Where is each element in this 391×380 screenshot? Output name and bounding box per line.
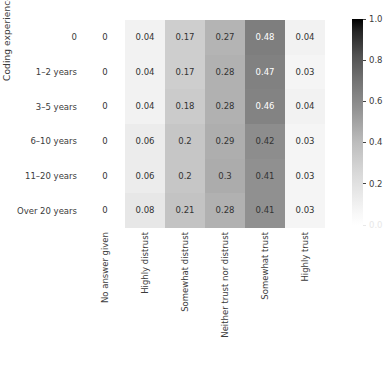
heatmap-cell-value: 0.29 [216,137,235,146]
x-tick-label-slot: Highly trust [285,228,325,378]
y-tick-label: 3–5 years [0,89,81,124]
heatmap-cell: 0 [85,193,125,228]
y-tick-label: 0 [0,20,81,55]
y-tick-label: Over 20 years [0,193,81,228]
heatmap-cell-value: 0.41 [256,206,275,215]
heatmap-cell: 0.42 [245,124,285,159]
heatmap-cell: 0.03 [285,193,325,228]
heatmap-cell-value: 0.06 [136,137,155,146]
heatmap-cell: 0.28 [205,193,245,228]
heatmap-cell-value: 0.2 [178,172,192,181]
y-tick-label: 1–2 years [0,55,81,90]
heatmap-cell-value: 0.06 [136,172,155,181]
heatmap-cell-value: 0 [102,137,107,146]
heatmap-cell-value: 0.03 [296,206,315,215]
heatmap-cell: 0.03 [285,124,325,159]
heatmap-cell: 0.3 [205,159,245,194]
heatmap-cell: 0.21 [165,193,205,228]
heatmap-cell-value: 0 [102,172,107,181]
heatmap-cell-value: 0.48 [256,33,275,42]
heatmap-cell: 0.04 [125,20,165,55]
x-tick-label-slot: Neither trust nor distrust [205,228,245,378]
x-tick-label-slot: No answer given [85,228,125,378]
heatmap-cell: 0 [85,55,125,90]
heatmap-cell-value: 0.04 [296,33,315,42]
heatmap-cell-value: 0 [102,206,107,215]
heatmap-cell: 0.06 [125,124,165,159]
heatmap-cell-value: 0 [102,102,107,111]
heatmap-cell-value: 0 [102,33,107,42]
heatmap-cell: 0 [85,159,125,194]
heatmap-cell: 0.2 [165,124,205,159]
colorbar-tick-label: 0.8 [369,55,383,64]
heatmap-cell-value: 0.28 [216,102,235,111]
heatmap-cell: 0.04 [125,55,165,90]
heatmap-cell-value: 0.03 [296,68,315,77]
heatmap-cell-value: 0.04 [136,33,155,42]
colorbar-tick-mark [363,101,366,102]
x-tick-label-slot: Highly distrust [125,228,165,378]
heatmap-cell: 0.06 [125,159,165,194]
heatmap-cell: 0.29 [205,124,245,159]
colorbar-tick-label: 1.0 [369,14,383,23]
colorbar-tick-mark [363,60,366,61]
heatmap-cell: 0.28 [205,55,245,90]
y-tick-label: 11–20 years [0,159,81,194]
heatmap-cell-value: 0.21 [176,206,195,215]
x-tick-label: Highly trust [300,232,310,282]
heatmap-cell-value: 0.04 [136,102,155,111]
x-tick-label-slot: Somewhat distrust [165,228,205,378]
heatmap-cell-value: 0.3 [218,172,232,181]
colorbar-ticks: 0.00.20.40.60.81.0 [363,19,391,225]
heatmap-cell-value: 0.27 [216,33,235,42]
heatmap-cell: 0.46 [245,89,285,124]
x-tick-label: Highly distrust [140,232,150,294]
heatmap-cell: 0.47 [245,55,285,90]
heatmap-cell: 0 [85,124,125,159]
colorbar-tick-label: 0.4 [369,138,383,147]
colorbar-tick-label: 0.0 [369,220,383,229]
y-tick-label: 6–10 years [0,124,81,159]
heatmap-cell-value: 0.03 [296,172,315,181]
y-tick-labels: 01–2 years3–5 years6–10 years11–20 years… [0,20,81,228]
heatmap-cell: 0.48 [245,20,285,55]
heatmap-cell: 0 [85,89,125,124]
heatmap-cell-value: 0.2 [178,137,192,146]
heatmap-cell-value: 0 [102,68,107,77]
colorbar-tick-mark [363,142,366,143]
x-tick-label: Somewhat trust [260,232,270,300]
colorbar-tick-mark [363,183,366,184]
colorbar-tick-mark [363,225,366,226]
heatmap-cell-value: 0.28 [216,206,235,215]
heatmap-cell-value: 0.08 [136,206,155,215]
heatmap-cell: 0.27 [205,20,245,55]
heatmap-cell-value: 0.03 [296,137,315,146]
heatmap-cell: 0.18 [165,89,205,124]
heatmap-cell: 0.41 [245,159,285,194]
heatmap-grid: 00.040.170.270.480.0400.040.170.280.470.… [85,20,325,228]
x-tick-labels: No answer givenHighly distrustSomewhat d… [85,228,325,378]
heatmap-cell-value: 0.28 [216,68,235,77]
heatmap-cell: 0.04 [125,89,165,124]
heatmap-cell: 0 [85,20,125,55]
heatmap-cell: 0.03 [285,55,325,90]
heatmap-figure: Coding experience 01–2 years3–5 years6–1… [0,0,391,380]
heatmap-cell-value: 0.46 [256,102,275,111]
heatmap-cell-value: 0.04 [296,102,315,111]
heatmap-cell-value: 0.17 [176,33,195,42]
heatmap-cell: 0.03 [285,159,325,194]
heatmap-cell: 0.04 [285,20,325,55]
x-tick-label: No answer given [100,232,110,303]
heatmap-cell: 0.04 [285,89,325,124]
x-tick-label: Neither trust nor distrust [220,232,230,338]
heatmap-cell-value: 0.18 [176,102,195,111]
heatmap-cell: 0.41 [245,193,285,228]
heatmap-cell-value: 0.47 [256,68,275,77]
heatmap-cell-value: 0.41 [256,172,275,181]
heatmap-cell: 0.28 [205,89,245,124]
heatmap-cell-value: 0.04 [136,68,155,77]
colorbar-tick-mark [363,19,366,20]
heatmap-cell: 0.17 [165,20,205,55]
heatmap-cell-value: 0.42 [256,137,275,146]
colorbar-tick-label: 0.6 [369,97,383,106]
